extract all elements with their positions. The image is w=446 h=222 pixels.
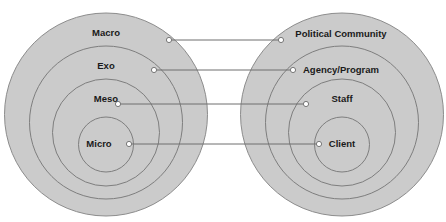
label-meso: Meso — [94, 93, 118, 104]
label-client: Client — [329, 138, 356, 149]
dot-client-icon — [316, 141, 321, 146]
dot-political-icon — [278, 37, 283, 42]
label-political-community: Political Community — [295, 28, 387, 39]
label-macro: Macro — [92, 27, 120, 38]
dot-agency-icon — [290, 67, 295, 72]
diagram-canvas: Macro Exo Meso Micro Political Community… — [0, 0, 446, 222]
left-circle-set — [5, 13, 208, 216]
dot-exo-icon — [151, 67, 156, 72]
dot-micro-icon — [126, 141, 131, 146]
label-staff: Staff — [331, 93, 353, 104]
label-micro: Micro — [86, 138, 112, 149]
dot-macro-icon — [166, 37, 171, 42]
right-circle-set — [241, 13, 444, 216]
label-exo: Exo — [97, 60, 115, 71]
label-agency-program: Agency/Program — [303, 64, 379, 75]
dot-staff-icon — [303, 101, 308, 106]
ecological-levels-diagram: Macro Exo Meso Micro Political Community… — [0, 0, 446, 222]
